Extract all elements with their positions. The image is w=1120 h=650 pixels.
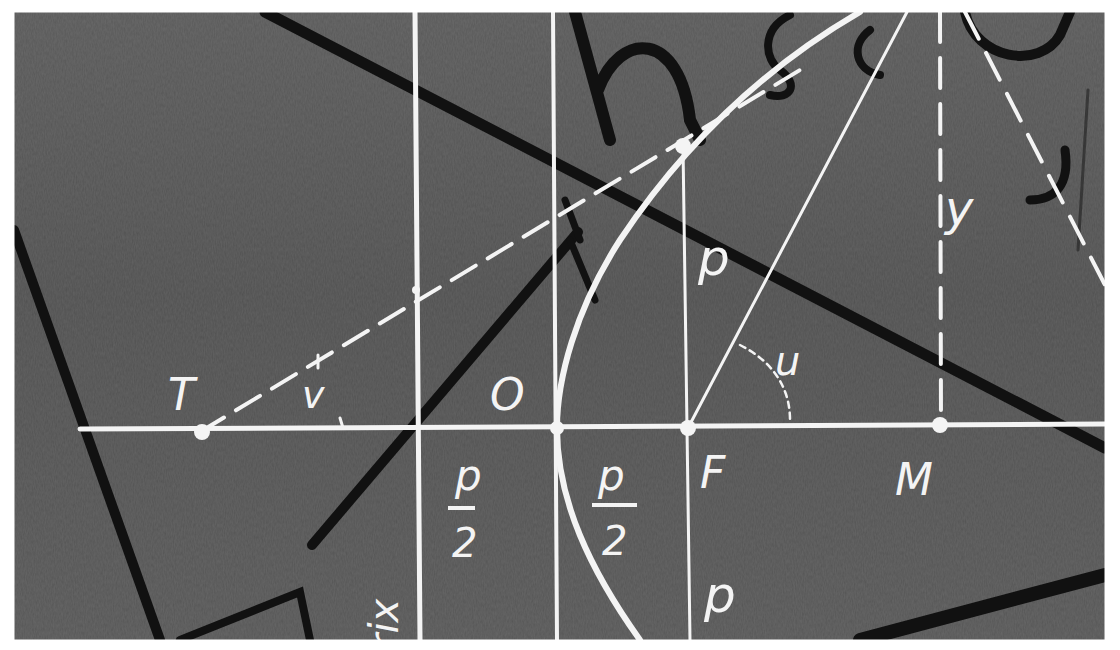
label-F: F [700, 447, 726, 498]
label-p-half-right-den: 2 [602, 518, 627, 564]
label-T: T [168, 369, 198, 420]
label-u: u [775, 338, 800, 384]
label-v: v [302, 373, 325, 417]
point-F [680, 420, 696, 436]
chalkboard-diagram: T v O p 2 p 2 F p p u y M rix [0, 0, 1120, 650]
label-directrix-fragment: rix [361, 598, 407, 650]
point-O [550, 421, 564, 435]
label-O: O [490, 369, 525, 420]
point-M [932, 417, 948, 433]
label-p-lower: p [703, 566, 736, 624]
label-p-half-left-den: 2 [452, 520, 477, 566]
ordinate-dashed-line [940, 12, 941, 425]
label-p-upper: p [697, 229, 730, 287]
label-y: y [943, 180, 974, 236]
label-p-half-left-num: p [454, 451, 482, 500]
point-latus-top [675, 138, 691, 154]
label-p-half-right-num: p [597, 451, 625, 500]
point-directrix-tangent [412, 286, 420, 294]
point-T [194, 424, 210, 440]
label-M: M [895, 454, 933, 505]
